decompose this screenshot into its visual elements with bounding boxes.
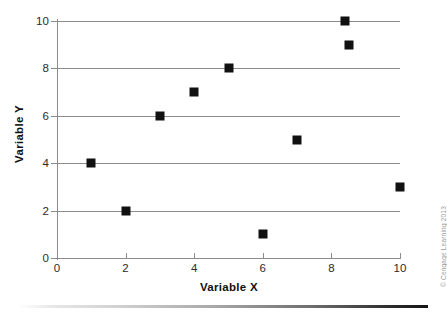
x-axis-tick-label: 10 <box>385 262 415 274</box>
x-axis-title: Variable X <box>57 281 401 293</box>
data-point <box>224 64 233 73</box>
data-point <box>121 206 130 215</box>
copyright-credit: © Cengage Learning 2013 <box>440 197 447 297</box>
gridline <box>57 163 400 164</box>
data-point <box>344 40 353 49</box>
y-axis-tick-label: 8 <box>23 62 49 74</box>
x-axis-tick <box>400 253 401 259</box>
data-point <box>341 17 350 26</box>
gridline <box>57 211 400 212</box>
y-axis-tick <box>51 211 57 212</box>
x-axis-tick-label: 4 <box>179 262 209 274</box>
gridline <box>57 116 400 117</box>
y-axis-tick <box>51 163 57 164</box>
x-axis-tick-label: 8 <box>316 262 346 274</box>
data-point <box>155 111 164 120</box>
data-point <box>190 88 199 97</box>
y-axis-tick-label: 2 <box>23 205 49 217</box>
y-axis-tick-label: 10 <box>23 15 49 27</box>
plot-area <box>57 21 400 258</box>
scatter-plot-figure: Variable Y Variable X © Cengage Learning… <box>0 0 447 315</box>
x-axis-tick <box>194 253 195 259</box>
x-axis-tick <box>331 253 332 259</box>
y-axis-tick <box>51 116 57 117</box>
bottom-gradient-rule <box>18 305 428 308</box>
y-axis-tick-label: 4 <box>23 157 49 169</box>
y-axis-line <box>57 19 58 260</box>
x-axis-tick <box>57 253 58 259</box>
y-axis-tick <box>51 68 57 69</box>
x-axis-tick-label: 0 <box>42 262 72 274</box>
x-axis-tick-label: 6 <box>248 262 278 274</box>
data-point <box>87 159 96 168</box>
x-axis-tick-label: 2 <box>111 262 141 274</box>
y-axis-tick-label: 6 <box>23 110 49 122</box>
x-axis-tick <box>263 253 264 259</box>
data-point <box>293 135 302 144</box>
data-point <box>396 182 405 191</box>
x-axis-tick <box>126 253 127 259</box>
data-point <box>258 230 267 239</box>
x-axis-line <box>57 258 401 259</box>
y-axis-tick <box>51 21 57 22</box>
